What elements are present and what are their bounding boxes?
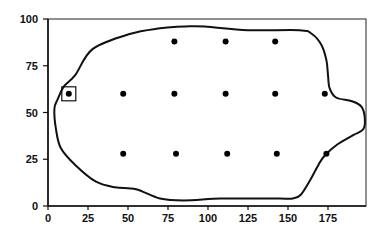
data-point — [272, 91, 278, 97]
y-axis-ticks: 0255075100 — [20, 13, 48, 212]
data-point — [274, 151, 280, 157]
y-tick-label: 25 — [26, 153, 38, 165]
x-tick-label: 50 — [122, 212, 134, 224]
scatter-chart: 0255075100125150175 0255075100 — [0, 0, 385, 233]
data-point — [120, 91, 126, 97]
data-point — [173, 151, 179, 157]
x-tick-label: 100 — [199, 212, 217, 224]
y-tick-label: 50 — [26, 107, 38, 119]
data-point — [272, 38, 278, 44]
data-point — [171, 38, 177, 44]
x-tick-label: 125 — [239, 212, 257, 224]
x-tick-label: 75 — [162, 212, 174, 224]
data-point — [120, 151, 126, 157]
data-points — [66, 38, 330, 156]
data-point — [66, 91, 72, 97]
x-tick-label: 175 — [319, 212, 337, 224]
data-point — [171, 91, 177, 97]
boundary-outline — [54, 26, 365, 200]
y-tick-label: 75 — [26, 60, 38, 72]
y-tick-label: 100 — [20, 13, 38, 25]
data-point — [223, 91, 229, 97]
x-tick-label: 25 — [82, 212, 94, 224]
data-point — [322, 91, 328, 97]
data-point — [223, 38, 229, 44]
data-point — [224, 151, 230, 157]
y-tick-label: 0 — [32, 200, 38, 212]
x-axis-ticks: 0255075100125150175 — [45, 206, 337, 224]
data-point — [323, 151, 329, 157]
x-tick-label: 150 — [279, 212, 297, 224]
x-tick-label: 0 — [45, 212, 51, 224]
